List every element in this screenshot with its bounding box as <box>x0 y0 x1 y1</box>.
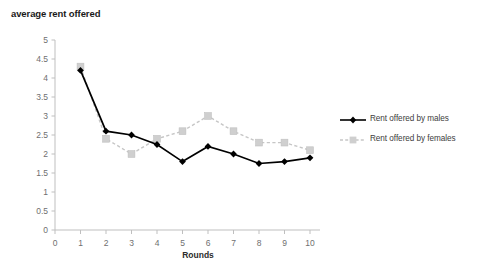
x-tick-label: 2 <box>104 238 109 248</box>
x-tick-label: 8 <box>257 238 262 248</box>
y-tick-label: 1 <box>43 187 48 197</box>
y-tick-label: 3 <box>43 111 48 121</box>
legend-label-females: Rent offered by females <box>370 134 456 143</box>
y-tick-label: 1.5 <box>36 168 48 178</box>
y-tick-label: 2 <box>43 149 48 159</box>
data-point-marker <box>179 128 186 135</box>
y-tick-label: 3.5 <box>36 92 48 102</box>
data-point-marker <box>307 147 314 154</box>
y-tick-label: 4 <box>43 73 48 83</box>
data-point-marker <box>103 128 110 135</box>
x-tick-label: 1 <box>78 238 83 248</box>
data-point-marker <box>256 160 263 167</box>
data-series <box>77 63 313 167</box>
series-line <box>81 70 311 163</box>
x-tick-label: 5 <box>180 238 185 248</box>
x-tick-label: 9 <box>282 238 287 248</box>
y-tick-label: 0 <box>43 225 48 235</box>
data-point-marker <box>103 135 110 142</box>
y-tick-label: 4.5 <box>36 54 48 64</box>
x-tick-label: 4 <box>155 238 160 248</box>
x-axis-title: Rounds <box>158 250 238 260</box>
x-tick-label: 7 <box>231 238 236 248</box>
data-point-marker <box>230 151 237 158</box>
x-tick-label: 0 <box>53 238 58 248</box>
x-tick-label: 10 <box>305 238 315 248</box>
data-point-marker <box>281 139 288 146</box>
y-tick-label: 2.5 <box>36 130 48 140</box>
series-line <box>81 67 311 154</box>
chart-container: average rent offered 00.511.522.533.544.… <box>0 0 483 271</box>
legend-item-females[interactable]: Rent offered by females <box>340 128 483 148</box>
data-point-marker <box>128 151 135 158</box>
x-tick-label: 3 <box>129 238 134 248</box>
data-point-marker <box>128 132 135 139</box>
legend-item-males[interactable]: Rent offered by males <box>340 108 483 128</box>
y-tick-label: 0.5 <box>36 206 48 216</box>
legend-swatch-males <box>340 112 366 124</box>
legend-label-males: Rent offered by males <box>370 114 449 123</box>
data-point-marker <box>230 128 237 135</box>
data-point-marker <box>205 113 212 120</box>
y-tick-label: 5 <box>43 35 48 45</box>
legend-swatch-females <box>340 132 366 144</box>
x-tick-label: 6 <box>206 238 211 248</box>
data-point-marker <box>256 139 263 146</box>
chart-legend: Rent offered by males Rent offered by fe… <box>340 108 483 148</box>
data-point-marker <box>281 158 288 165</box>
data-point-marker <box>307 154 314 161</box>
